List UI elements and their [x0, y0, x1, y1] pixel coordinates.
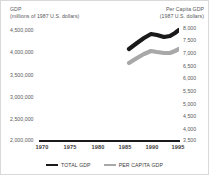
x-axis-line: [39, 140, 180, 142]
legend-swatch-per-capita-gdp: [104, 164, 116, 167]
series-canvas: [39, 26, 179, 141]
right-ytick-9: 3,500: [183, 137, 196, 143]
right-axis-subtitle: (1987 U.S. dollars): [160, 13, 204, 20]
left-ytick-1: 4,000,000: [10, 49, 34, 55]
right-ytick-8: 4,000: [183, 126, 196, 132]
chart-legend: TOTAL GDP PER CAPITA GDP: [1, 162, 208, 168]
plot-area: [39, 26, 179, 141]
legend-label-per-capita-gdp: PER CAPITA GDP: [119, 162, 163, 168]
right-axis-title: Per Capita GDP: [160, 6, 204, 13]
legend-swatch-total-gdp: [46, 164, 58, 167]
right-ytick-6: 5,000: [183, 101, 196, 107]
gdp-chart-figure: GDP (millions of 1987 U.S. dollars) Per …: [0, 0, 209, 175]
series-line-per-capita-gdp: [129, 49, 179, 63]
right-ytick-7: 4,500: [183, 113, 196, 119]
left-ytick-4: 2,500,000: [10, 116, 34, 122]
xtick-1995: 1995: [172, 144, 185, 150]
xtick-1980: 1980: [92, 144, 105, 150]
xtick-1990: 1990: [146, 144, 159, 150]
right-ytick-4: 6,000: [183, 75, 196, 81]
legend-item-per-capita-gdp: PER CAPITA GDP: [104, 162, 163, 168]
legend-item-total-gdp: TOTAL GDP: [46, 162, 91, 168]
left-ytick-3: 3,000,000: [10, 94, 34, 100]
right-ytick-2: 7,000: [183, 50, 196, 56]
legend-label-total-gdp: TOTAL GDP: [61, 162, 91, 168]
right-axis-caption: Per Capita GDP (1987 U.S. dollars): [160, 6, 204, 20]
right-ytick-5: 5,500: [183, 88, 196, 94]
right-ytick-3: 6,500: [183, 63, 196, 69]
left-axis-subtitle: (millions of 1987 U.S. dollars): [10, 13, 79, 20]
right-ytick-1: 7,500: [183, 37, 196, 43]
left-axis-caption: GDP (millions of 1987 U.S. dollars): [10, 6, 79, 20]
left-ytick-2: 3,500,000: [10, 72, 34, 78]
left-ytick-5: 2,000,000: [10, 137, 34, 143]
right-ytick-0: 8,000: [183, 25, 196, 31]
left-axis-title: GDP: [10, 6, 79, 13]
xtick-1985: 1985: [119, 144, 132, 150]
series-line-total-gdp: [129, 30, 179, 49]
xtick-1975: 1975: [64, 144, 77, 150]
xtick-1970: 1970: [36, 144, 49, 150]
left-ytick-0: 4,500,000: [10, 27, 34, 33]
